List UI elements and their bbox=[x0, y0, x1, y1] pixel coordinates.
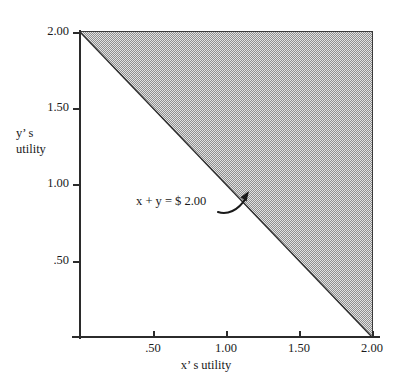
y-axis-title-line1: y’ s bbox=[16, 125, 74, 141]
y-tick-label: 1.00 bbox=[25, 177, 69, 190]
y-axis-title: y’ s utility bbox=[16, 125, 74, 157]
y-tick-label: 1.50 bbox=[25, 101, 69, 114]
y-tick-mark bbox=[73, 108, 80, 110]
x-tick-mark bbox=[372, 331, 374, 337]
y-tick-mark bbox=[73, 261, 80, 263]
x-tick-mark bbox=[226, 331, 228, 337]
x-tick-label: 2.00 bbox=[347, 342, 397, 355]
y-tick-mark bbox=[73, 184, 80, 186]
budget-line-annotation: x + y = $ 2.00 bbox=[136, 194, 206, 208]
utility-possibility-frontier-chart: 2.00 1.50 1.00 .50 .50 1.00 1.50 2.00 y’… bbox=[0, 0, 407, 381]
x-axis-title: x’ s utility bbox=[146, 358, 266, 372]
x-tick-mark bbox=[299, 331, 301, 337]
x-tick-label: .50 bbox=[128, 342, 178, 355]
x-tick-label: 1.00 bbox=[201, 342, 251, 355]
y-tick-label: 2.00 bbox=[25, 25, 69, 38]
y-tick-label: .50 bbox=[25, 254, 69, 267]
plot-frame-top bbox=[80, 31, 373, 32]
shaded-region-fill bbox=[80, 32, 372, 337]
x-tick-mark bbox=[153, 331, 155, 337]
y-tick-mark bbox=[73, 32, 80, 34]
shaded-region bbox=[80, 32, 372, 337]
y-axis-title-line2: utility bbox=[16, 141, 74, 157]
plot-frame-right bbox=[372, 31, 373, 337]
x-tick-label: 1.50 bbox=[274, 342, 324, 355]
